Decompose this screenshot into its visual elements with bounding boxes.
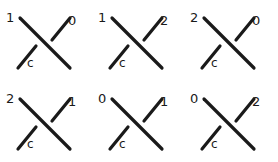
label-top-left: 1 [6, 11, 14, 24]
label-top-right: 0 [68, 14, 76, 27]
label-top-right: 1 [160, 95, 168, 108]
label-top-right: 1 [68, 95, 76, 108]
label-top-right: 0 [252, 14, 260, 27]
label-bottom-left: c [27, 57, 34, 69]
panel-grid: 1 0 c 1 2 c 2 0 c [0, 0, 278, 162]
label-bottom-left: c [211, 57, 218, 69]
label-top-left: 2 [190, 11, 198, 24]
label-bottom-left: c [119, 57, 126, 69]
crossing-diagram-figure: 1 0 c 1 2 c 2 0 c [0, 0, 278, 162]
label-top-left: 0 [190, 92, 198, 105]
crossing-panel: 1 0 c [0, 0, 92, 81]
crossing-panel: 0 1 c [92, 81, 184, 162]
label-bottom-left: c [119, 138, 126, 150]
label-bottom-left: c [27, 138, 34, 150]
label-top-right: 2 [252, 95, 260, 108]
crossing-panel: 2 0 c [184, 0, 278, 81]
crossing-panel: 0 2 c [184, 81, 278, 162]
crossing-panel: 1 2 c [92, 0, 184, 81]
label-top-left: 1 [98, 11, 106, 24]
crossing-panel: 2 1 c [0, 81, 92, 162]
label-top-right: 2 [160, 14, 168, 27]
label-bottom-left: c [211, 138, 218, 150]
label-top-left: 2 [6, 92, 14, 105]
label-top-left: 0 [98, 92, 106, 105]
